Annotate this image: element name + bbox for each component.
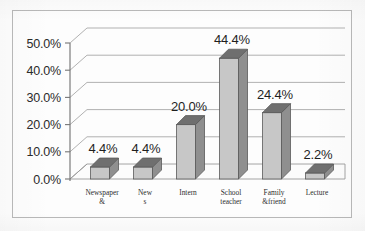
bar xyxy=(263,104,291,179)
bar-series xyxy=(91,49,334,179)
y-axis-tick-label: 40.0% xyxy=(27,64,62,78)
x-axis-category-label: Family xyxy=(264,188,285,197)
data-label: 4.4% xyxy=(132,141,161,156)
y-axis-tick-label: 20.0% xyxy=(27,118,62,132)
data-label: 4.4% xyxy=(89,141,118,156)
gridline xyxy=(70,82,345,97)
data-labels: 4.4%4.4%20.0%44.4%24.4%2.2% xyxy=(89,32,333,162)
column-chart-3d: 0.0%10.0%20.0%30.0%40.0%50.0% 4.4%4.4%20… xyxy=(0,0,365,231)
x-axis-category-label: School xyxy=(221,188,242,197)
x-axis-category-label: Lecture xyxy=(306,188,329,197)
x-axis-category-labels: Newspaper&NewsInternSchoolteacherFamily&… xyxy=(85,188,329,206)
x-axis-category-label: New xyxy=(138,188,153,197)
gridline xyxy=(70,110,345,125)
gridline xyxy=(70,55,345,70)
y-axis-tick-labels: 0.0%10.0%20.0%30.0%40.0%50.0% xyxy=(27,37,62,187)
data-label: 2.2% xyxy=(304,147,333,162)
data-label: 20.0% xyxy=(171,99,208,114)
axis-ticks xyxy=(65,43,70,179)
bar xyxy=(220,49,248,179)
data-label: 24.4% xyxy=(257,87,294,102)
y-axis-tick-label: 50.0% xyxy=(27,37,62,51)
x-axis-category-label: s xyxy=(144,197,147,206)
y-axis-tick-label: 10.0% xyxy=(27,145,62,159)
chart-container: 0.0%10.0%20.0%30.0%40.0%50.0% 4.4%4.4%20… xyxy=(0,0,365,231)
data-label: 44.4% xyxy=(214,32,251,47)
x-axis-category-label: &friend xyxy=(262,197,286,206)
x-axis-category-label: teacher xyxy=(220,197,242,206)
x-axis-category-label: & xyxy=(99,197,105,206)
gridline xyxy=(70,28,345,43)
x-axis-category-label: Newspaper xyxy=(85,188,119,197)
value-axis xyxy=(65,43,70,181)
y-axis-tick-label: 0.0% xyxy=(33,173,61,187)
bar xyxy=(177,116,205,179)
y-axis-tick-label: 30.0% xyxy=(27,91,62,105)
gridlines xyxy=(70,28,345,152)
x-axis-category-label: Intern xyxy=(179,188,197,197)
